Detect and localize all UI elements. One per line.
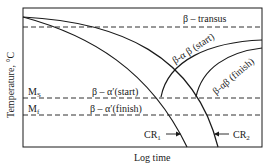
cooling-curve-cr1 <box>23 17 187 147</box>
beta-alpha-beta-finish-label: β-αβ (finish) <box>210 56 257 98</box>
cct-diagram: β – transus MS Mf β – α′(start) β – α′(f… <box>0 0 271 166</box>
cr2-label: CR2 <box>233 129 250 142</box>
mf-label: Mf <box>28 103 40 116</box>
beta-transus-label: β – transus <box>183 13 227 24</box>
x-axis-label: Log time <box>134 152 171 163</box>
beta-alpha-prime-start-label: β – α′(start) <box>92 86 138 98</box>
cooling-curve-cr2 <box>23 17 218 147</box>
beta-alpha-prime-finish-label: β – α′(finish) <box>90 103 142 115</box>
y-axis-label: Temperature, °C <box>5 52 16 118</box>
ms-label: MS <box>28 86 41 99</box>
cr1-arrow-head <box>176 132 181 137</box>
cr1-label: CR1 <box>144 129 161 142</box>
